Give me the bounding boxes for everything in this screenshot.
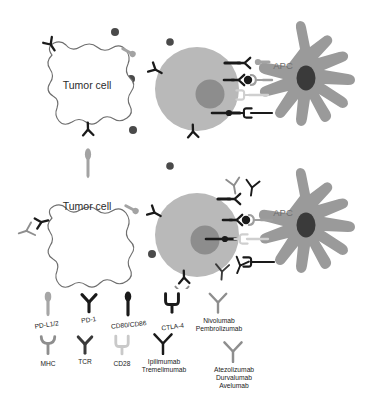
legend-label-atezolizumab: Atezolizumab [214, 366, 254, 373]
apc-label-top: APC [273, 60, 293, 71]
tumor-cell-label-bottom: Tumor cell [63, 200, 112, 212]
legend-label-mhc: MHC [40, 360, 55, 367]
apc-nucleus-top [297, 66, 316, 91]
peptide-dot-bottom [242, 216, 250, 224]
tumor-cell-bottom [48, 205, 134, 287]
apc-label-bottom: APC [273, 207, 293, 218]
legend-label-tcr: TCR [78, 358, 92, 365]
legend-label-avelumab: Avelumab [219, 382, 249, 389]
legend-label-cd28: CD28 [114, 360, 131, 367]
legend-label-durvalumab: Durvalumab [216, 374, 252, 381]
t-cell-nucleus-top [196, 80, 225, 109]
tumor-cell-label-top: Tumor cell [63, 79, 112, 91]
peptide-dot-top [244, 76, 252, 84]
legend-label-pembrolizumab: Pembrolizumab [196, 325, 243, 332]
legend-label-ipilimumab: Ipilimumab [148, 358, 181, 366]
legend: PD-L1/2 PD-1 CD80/CD86 CTLA-4 Nivolumab … [28, 289, 328, 389]
immune-checkpoint-diagram: Tumor cell APC [0, 0, 376, 405]
legend-label-tremelimumab: Tremelimumab [142, 366, 187, 373]
legend-label-nivolumab: Nivolumab [203, 317, 235, 324]
apc-nucleus-bottom [297, 213, 316, 238]
